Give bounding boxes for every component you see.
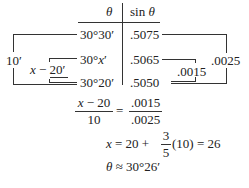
label-underline [50,77,68,78]
row-theta-1: 30°30′ [80,28,114,42]
header-sin-theta: sin θ [130,5,155,19]
label-10-minutes: 10′ [6,54,22,68]
eq1-rhs-fraction: .0015 .0025 [129,96,162,127]
row-sin-2: .5065 [130,53,159,67]
eq2-frac-den: 5 [161,146,171,160]
left-outer-bracket-top [13,34,77,35]
label-0025: .0025 [211,54,240,68]
header-theta: θ [106,5,112,19]
column-divider [122,3,123,85]
label-x-minus-20: x − 20′ [30,63,65,77]
eq1-lhs-den: 10 [75,113,113,127]
right-outer-bracket-bottom [171,83,227,84]
eq1-lhs-fraction: x − 20 10 [75,96,113,127]
right-outer-bracket-top [162,34,227,35]
eq2-fraction: 3 5 [161,129,171,160]
left-outer-bracket-vert-bottom [13,68,14,84]
eq1-rhs-num: .0015 [129,96,162,110]
right-outer-bracket-vert-top [226,34,227,53]
right-inner-bracket-top [162,59,196,60]
left-outer-bracket-bottom [13,84,77,85]
eq1-rhs-den: .0025 [129,113,162,127]
label-0015: .0015 [177,65,206,79]
eq1-equals: = [116,104,123,118]
left-inner-bracket-top [49,58,77,59]
eq1-lhs-num: x − 20 [75,96,113,110]
row-theta-3: 30°20′ [80,76,114,90]
row-sin-3: .5050 [130,76,159,90]
eq3-result: θ ≈ 30°26′ [106,160,160,174]
row-sin-1: .5075 [130,28,159,42]
right-outer-bracket-vert-bottom [226,68,227,84]
eq2-rhs: (10) = 26 [172,137,221,151]
eq2-frac-num: 3 [161,129,171,143]
left-inner-bracket-bottom [49,82,77,83]
right-inner-bracket-vert-top [195,59,196,63]
header-rule [78,22,160,23]
row-theta-2: 30°x′ [80,53,107,67]
eq2-lhs: x = 20 + [106,137,149,151]
left-outer-bracket-vert-top [13,34,14,52]
right-inner-bracket-bottom [171,81,196,82]
